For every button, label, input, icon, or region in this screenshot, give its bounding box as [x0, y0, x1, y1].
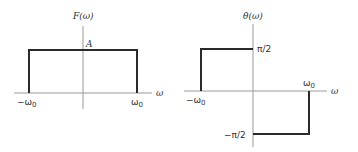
y-axis-label: θ(ω)	[243, 11, 263, 21]
amplitude-plot: F(ω) A ω −ω0 ω0	[14, 11, 164, 109]
pos-pi-half-label: π/2	[257, 44, 271, 54]
pos-omega0-tick: ω0	[303, 78, 315, 90]
level-label: A	[85, 39, 93, 49]
pos-omega0-tick: ω0	[131, 97, 143, 109]
phase-curve-negative	[201, 49, 253, 91]
phase-curve-positive	[253, 91, 309, 134]
x-axis-label: ω	[156, 88, 164, 98]
neg-omega0-tick: −ω0	[186, 95, 206, 107]
phase-plot: θ(ω) π/2 −π/2 ω −ω0 ω0	[184, 11, 339, 147]
neg-omega0-tick: −ω0	[17, 97, 37, 109]
y-axis-label: F(ω)	[72, 11, 94, 21]
x-axis-label: ω	[331, 86, 339, 96]
figure: F(ω) A ω −ω0 ω0 θ(ω) π/2 −π/2 ω −ω0 ω0	[0, 0, 358, 152]
neg-pi-half-label: −π/2	[224, 130, 246, 140]
